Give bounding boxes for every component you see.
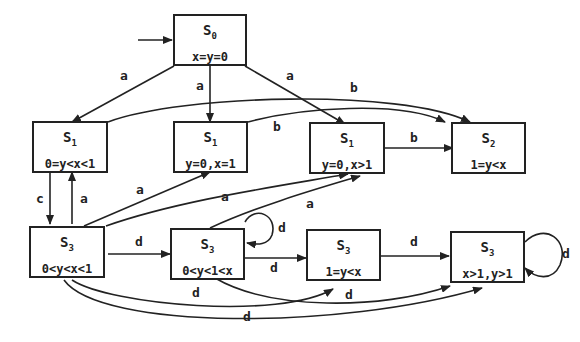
state-name: S [63, 129, 71, 145]
state-name: S [204, 129, 212, 145]
state-condition: 0<y<1<x [172, 264, 243, 278]
edge-label: a [136, 182, 144, 197]
state-node-s0[interactable]: S0 x=y=0 [173, 14, 247, 66]
edge-n5-n2 [84, 172, 210, 226]
state-condition: y=0,x=1 [175, 157, 246, 171]
state-condition: 1=y<x [453, 158, 524, 172]
state-name: S [201, 236, 209, 252]
edge-label: d [345, 287, 353, 302]
state-node-s1-c[interactable]: S1 y=0,x>1 [309, 122, 385, 174]
edge-n5-n7 [72, 280, 333, 306]
edge-label: a [221, 189, 229, 204]
state-node-s1-a[interactable]: S1 0=y<x<1 [32, 121, 108, 173]
edge-label: a [306, 196, 314, 211]
edge-label: b [350, 80, 358, 95]
state-node-s1-b[interactable]: S1 y=0,x=1 [173, 121, 248, 173]
edge-label: a [196, 78, 204, 93]
edge-label: c [36, 191, 44, 206]
edge-label: d [410, 234, 418, 249]
edge-label: d [270, 260, 278, 275]
edge-label: d [243, 309, 251, 324]
edge-label: a [120, 68, 128, 83]
edge-label: d [135, 234, 143, 249]
edge-n5-n8 [64, 280, 482, 319]
state-node-s3-d[interactable]: S3 x>1,y>1 [450, 231, 525, 283]
edge-label: d [192, 285, 200, 300]
state-name: S [340, 130, 348, 146]
state-name: S [337, 237, 345, 253]
edge-label: a [286, 68, 294, 83]
state-condition: y=0,x>1 [311, 158, 383, 172]
state-name: S [482, 130, 490, 146]
state-node-s3-b[interactable]: S3 0<y<1<x [170, 228, 245, 280]
state-condition: 0=y<x<1 [34, 157, 106, 171]
edge-label: d [562, 246, 570, 261]
state-node-s3-a[interactable]: S3 0<y<x<1 [29, 226, 105, 278]
state-name: S [203, 22, 211, 38]
state-node-s3-c[interactable]: S3 1=y<x [306, 229, 381, 281]
edge-n0-n3 [245, 66, 345, 124]
edge-label: b [410, 130, 418, 145]
edge-n6-n6 [245, 213, 273, 244]
state-name: S [481, 239, 489, 255]
state-condition: x>1,y>1 [452, 267, 523, 281]
state-condition: 0<y<x<1 [31, 262, 103, 276]
edge-n1-n4 [108, 99, 470, 122]
edge-label: d [278, 220, 286, 235]
state-condition: x=y=0 [175, 50, 245, 64]
edge-n8-n8 [525, 233, 562, 276]
state-name: S [60, 234, 68, 250]
edge-n6-n8 [215, 278, 450, 303]
state-condition: 1=y<x [308, 265, 379, 279]
state-node-s2[interactable]: S2 1=y<x [451, 122, 526, 174]
edge-label: b [273, 119, 281, 134]
edge-label: a [80, 191, 88, 206]
